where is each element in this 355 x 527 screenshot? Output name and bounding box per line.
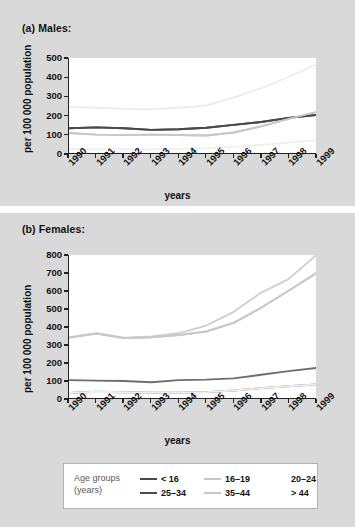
y-axis-tick-label: 100 <box>32 129 62 140</box>
legend-swatch-icon <box>204 492 221 495</box>
legend-swatch-icon <box>204 478 221 481</box>
chart-males-plot-area <box>68 58 316 154</box>
y-axis-tick-label: 0 <box>32 148 62 159</box>
chart-females: per 100 000 population 01002003004005006… <box>0 213 355 443</box>
chart-females-xlabel: years <box>0 435 355 446</box>
legend-item: 35–44 <box>204 486 250 500</box>
chart-males-lines <box>69 58 316 153</box>
y-axis-tick-mark <box>64 344 68 345</box>
y-axis-tick-mark <box>64 115 68 116</box>
series-line <box>69 112 316 135</box>
panel-males: (a) Males: per 100 000 population 010020… <box>0 0 355 206</box>
y-axis-tick-label: 0 <box>32 393 62 404</box>
legend-label: 35–44 <box>225 488 250 498</box>
y-axis-tick-mark <box>64 290 68 291</box>
y-axis-tick-label: 200 <box>32 110 62 121</box>
x-axis-tick-label: 1999 <box>314 390 337 413</box>
y-axis-tick-label: 200 <box>32 357 62 368</box>
y-axis-tick-label: 600 <box>32 285 62 296</box>
chart-females-lines <box>69 255 316 398</box>
y-axis-tick-mark <box>64 380 68 381</box>
y-axis-tick-mark <box>64 57 68 58</box>
legend-item: 16–19 <box>204 472 250 486</box>
series-line <box>69 65 316 110</box>
figure-page: (a) Males: per 100 000 population 010020… <box>0 0 355 527</box>
legend-swatch-icon <box>270 492 287 495</box>
y-axis-tick-label: 300 <box>32 339 62 350</box>
legend-item: 25–34 <box>140 486 186 500</box>
legend-title-line1: Age groups <box>74 472 120 484</box>
legend-label: < 16 <box>161 474 179 484</box>
chart-males-xlabel: years <box>0 190 355 201</box>
legend-title-line2: (years) <box>74 484 120 496</box>
legend-label: 25–34 <box>161 488 186 498</box>
y-axis-tick-mark <box>64 134 68 135</box>
y-axis-tick-mark <box>64 96 68 97</box>
legend-label: 16–19 <box>225 474 250 484</box>
legend-item: < 16 <box>140 472 186 486</box>
legend-swatch-icon <box>140 492 157 495</box>
legend-label: > 44 <box>291 488 309 498</box>
chart-males: per 100 000 population 0100200300400500 … <box>0 0 355 206</box>
legend-label: 20–24 <box>291 474 316 484</box>
legend-column-1: < 1625–34 <box>140 472 186 500</box>
legend-swatch-icon <box>270 478 287 481</box>
y-axis-tick-mark <box>64 272 68 273</box>
y-axis-tick-label: 500 <box>32 52 62 63</box>
legend-column-3: 20–24> 44 <box>270 472 316 500</box>
y-axis-tick-mark <box>64 326 68 327</box>
chart-females-plot-area <box>68 255 316 399</box>
y-axis-tick-label: 700 <box>32 267 62 278</box>
y-axis-tick-label: 100 <box>32 375 62 386</box>
legend-item: > 44 <box>270 486 316 500</box>
legend-column-2: 16–1935–44 <box>204 472 250 500</box>
y-axis-tick-mark <box>64 308 68 309</box>
legend-swatch-icon <box>140 478 157 481</box>
y-axis-tick-mark <box>64 77 68 78</box>
series-line <box>69 368 316 382</box>
y-axis-tick-label: 400 <box>32 321 62 332</box>
y-axis-tick-label: 800 <box>32 249 62 260</box>
y-axis-tick-label: 500 <box>32 303 62 314</box>
y-axis-tick-mark <box>64 254 68 255</box>
y-axis-tick-mark <box>64 362 68 363</box>
panel-divider <box>0 206 355 213</box>
y-axis-tick-label: 300 <box>32 90 62 101</box>
legend: Age groups (years) < 1625–34 16–1935–44 … <box>63 463 318 509</box>
y-axis-tick-label: 400 <box>32 71 62 82</box>
legend-item: 20–24 <box>270 472 316 486</box>
series-line <box>69 112 316 135</box>
legend-title: Age groups (years) <box>74 472 120 496</box>
x-axis-tick-label: 1999 <box>314 145 337 168</box>
